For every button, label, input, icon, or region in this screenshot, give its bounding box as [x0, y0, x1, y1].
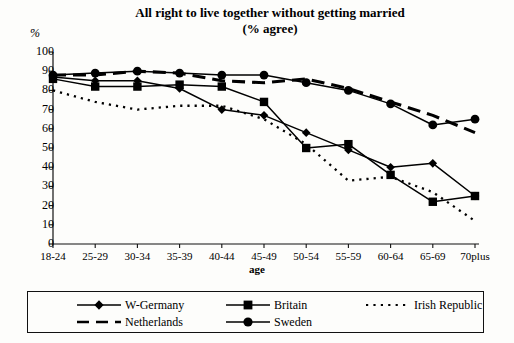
chart-container: All right to live together without getti… — [0, 0, 514, 343]
series-marker-square — [302, 144, 310, 152]
series-marker-circle — [471, 115, 480, 124]
legend-swatch-dashed-line — [76, 315, 122, 329]
legend-swatch-dotted-line — [365, 298, 411, 312]
legend-swatch-square-line — [225, 298, 271, 312]
y-axis-tick-label: 60 — [20, 121, 54, 136]
y-axis-tick-label: 70 — [20, 102, 54, 117]
chart-legend: W-Germany Britain Irish Republic Netherl… — [27, 291, 484, 333]
legend-label-britain: Britain — [274, 298, 307, 313]
legend-label-w-germany: W-Germany — [125, 298, 184, 313]
series-marker-square — [133, 82, 141, 90]
series-marker-square — [218, 82, 226, 90]
series-marker-circle — [217, 71, 226, 80]
series-marker-square — [429, 198, 437, 206]
series-marker-square — [91, 82, 99, 90]
y-axis-tick-label: 50 — [20, 140, 54, 155]
series-line-w-germany — [53, 77, 475, 196]
y-axis-tick-label: 40 — [20, 159, 54, 174]
series-marker-circle — [428, 121, 437, 130]
y-axis-tick-label: 100 — [20, 44, 54, 59]
series-marker-square — [175, 80, 183, 88]
y-axis-tick-label: 10 — [20, 217, 54, 232]
y-axis-tick-label: 80 — [20, 82, 54, 97]
chart-subtitle: (% agree) — [60, 21, 480, 37]
series-marker-circle — [175, 69, 184, 78]
series-marker-square — [344, 140, 352, 148]
chart-title: All right to live together without getti… — [60, 5, 480, 37]
x-axis-tick-label: 70plus — [447, 250, 503, 262]
series-marker-circle — [133, 67, 142, 76]
y-axis-tick-label: 30 — [20, 178, 54, 193]
chart-title-main: All right to live together without getti… — [135, 5, 404, 20]
series-marker-diamond — [302, 128, 311, 137]
legend-label-netherlands: Netherlands — [125, 315, 183, 330]
series-marker-circle — [344, 86, 353, 95]
y-axis-tick-label: 0 — [20, 236, 54, 251]
series-marker-circle — [386, 99, 395, 108]
legend-swatch-diamond-line — [76, 298, 122, 312]
legend-item-britain: Britain — [225, 297, 307, 313]
series-marker-square — [260, 98, 268, 106]
legend-item-irish-republic: Irish Republic — [365, 297, 482, 313]
series-marker-diamond — [386, 163, 395, 172]
series-marker-diamond — [260, 111, 269, 120]
series-marker-circle — [91, 69, 100, 78]
legend-label-sweden: Sweden — [274, 315, 312, 330]
legend-item-sweden: Sweden — [225, 314, 312, 330]
series-marker-square — [471, 192, 479, 200]
legend-item-w-germany: W-Germany — [76, 297, 184, 313]
series-marker-square — [386, 171, 394, 179]
y-axis-tick-label: 90 — [20, 63, 54, 78]
x-axis-title: age — [0, 263, 514, 275]
legend-swatch-circle-line — [225, 315, 271, 329]
series-marker-circle — [260, 71, 269, 80]
y-axis-tick-label: 20 — [20, 198, 54, 213]
series-line-britain — [53, 79, 475, 202]
legend-item-netherlands: Netherlands — [76, 314, 183, 330]
legend-label-irish-republic: Irish Republic — [414, 298, 482, 313]
series-marker-circle — [302, 78, 311, 87]
